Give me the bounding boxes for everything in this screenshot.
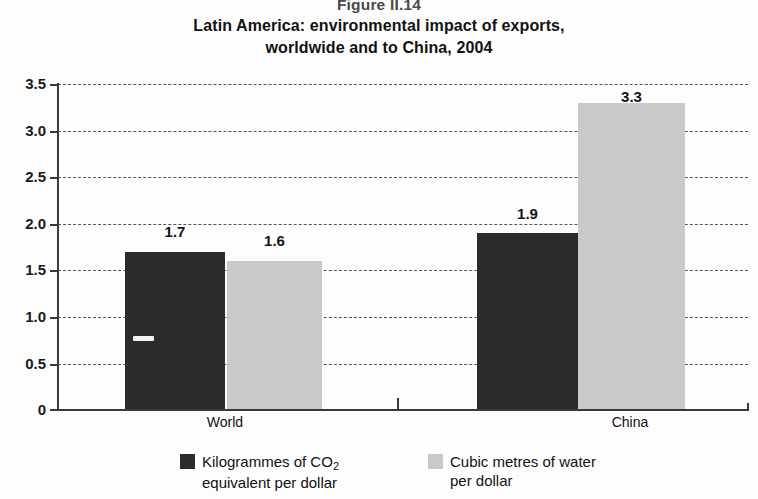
y-tick-mark-2-5 [50, 177, 59, 179]
category-separator-tick [397, 398, 399, 410]
y-tick-label-1-5: 1.5 [0, 261, 46, 278]
y-tick-label-3-0: 3.0 [0, 122, 46, 139]
y-tick-label-3-5: 3.5 [0, 75, 46, 92]
figure-title-line-2: worldwide and to China, 2004 [79, 37, 679, 59]
y-tick-label-2-0: 2.0 [0, 215, 46, 232]
legend: Kilogrammes of CO2equivalent per dollar … [0, 448, 758, 498]
value-label-world-co2: 1.7 [125, 223, 225, 240]
x-axis-end-tick [747, 403, 749, 411]
y-tick-label-0-5: 0.5 [0, 355, 46, 372]
bar-world-water[interactable] [227, 261, 322, 410]
legend-label-co2-part1: Kilogrammes of CO [202, 453, 333, 470]
y-tick-mark-3-5 [50, 84, 59, 86]
legend-label-co2-subscript: 2 [333, 460, 339, 472]
page-title: Latin America: environmental impact of e… [79, 15, 679, 59]
x-category-label-world: World [165, 414, 285, 430]
legend-label-water-line2: per dollar [450, 472, 513, 489]
value-label-china-water: 3.3 [578, 88, 685, 105]
legend-label-co2-line2: equivalent per dollar [202, 474, 337, 491]
bar-world-co2[interactable] [125, 252, 225, 410]
y-tick-label-1-0: 1.0 [0, 308, 46, 325]
y-tick-label-0: 0 [0, 401, 46, 418]
y-tick-mark-0-5 [50, 364, 59, 366]
legend-swatch-co2-icon [180, 454, 195, 469]
figure-container: Figure II.14 Latin America: environmenta… [0, 0, 758, 499]
legend-item-co2[interactable]: Kilogrammes of CO2equivalent per dollar [180, 452, 339, 492]
legend-label-water: Cubic metres of waterper dollar [450, 452, 596, 490]
bar-china-co2[interactable] [477, 233, 578, 410]
legend-swatch-water-icon [428, 454, 443, 469]
legend-label-water-part1: Cubic metres of water [450, 453, 596, 470]
figure-title-line-1: Latin America: environmental impact of e… [193, 17, 564, 34]
y-tick-mark-3-0 [50, 131, 59, 133]
y-tick-mark-1-0 [50, 317, 59, 319]
plot-area: 1.7 1.6 1.9 3.3 [58, 84, 748, 410]
y-tick-mark-2-0 [50, 224, 59, 226]
value-label-world-water: 1.6 [227, 232, 322, 249]
x-category-label-china: China [570, 414, 690, 430]
y-tick-label-2-5: 2.5 [0, 168, 46, 185]
bar-scratch-artifact [133, 336, 154, 341]
figure-number: Figure II.14 [0, 0, 758, 13]
value-label-china-co2: 1.9 [477, 205, 578, 222]
legend-item-water[interactable]: Cubic metres of waterper dollar [428, 452, 596, 490]
y-tick-mark-1-5 [50, 270, 59, 272]
legend-label-co2: Kilogrammes of CO2equivalent per dollar [202, 452, 339, 492]
x-axis-line [50, 409, 749, 411]
bar-china-water[interactable] [578, 103, 685, 410]
gridline-3-5 [58, 84, 748, 85]
